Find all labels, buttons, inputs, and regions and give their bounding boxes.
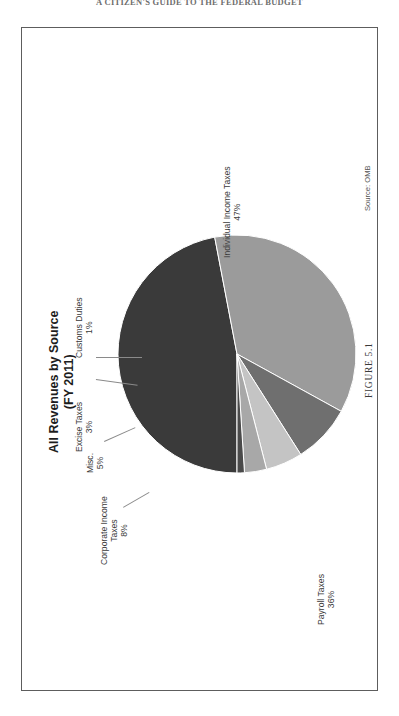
slice-label-excise-taxes-pct: 3% xyxy=(84,402,94,452)
slice-label-customs-duties-pct: 1% xyxy=(84,297,94,358)
pie-chart: All Revenues by Source (FY 2011) Individ… xyxy=(22,28,379,692)
pie-slice-individual-income-taxes xyxy=(118,237,237,473)
slice-label-customs-duties-name: Customs Duties xyxy=(74,297,84,358)
slice-label-corporate-income-taxes-name1: Corporate Income xyxy=(99,496,109,565)
chart-title: All Revenues by Source (FY 2011) xyxy=(47,311,76,453)
figure-caption: FIGURE 5.1 xyxy=(364,342,374,398)
slice-label-misc-name: Misc. xyxy=(85,453,95,473)
slice-label-payroll-taxes-name: Payroll Taxes xyxy=(316,574,326,625)
pie-graphic xyxy=(117,234,357,474)
slice-label-payroll-taxes: Payroll Taxes 36% xyxy=(316,574,336,625)
slice-label-individual-income-taxes-name: Individual Income Taxes xyxy=(222,166,232,258)
slice-label-individual-income-taxes: Individual Income Taxes 47% xyxy=(222,166,242,258)
slice-label-misc: Misc. 5% xyxy=(85,453,105,473)
chart-title-line1: All Revenues by Source xyxy=(47,311,62,453)
running-head: A CITIZEN'S GUIDE TO THE FEDERAL BUDGET xyxy=(0,0,399,6)
pie-svg xyxy=(117,234,357,474)
slice-label-misc-pct: 5% xyxy=(95,453,105,473)
slice-label-payroll-taxes-pct: 36% xyxy=(326,574,336,625)
slice-label-excise-taxes-name: Excise Taxes xyxy=(74,402,84,452)
source-note: Source: OMB xyxy=(363,165,372,211)
slice-label-customs-duties: Customs Duties 1% xyxy=(74,297,94,358)
figure-frame: All Revenues by Source (FY 2011) Individ… xyxy=(21,27,378,691)
slice-label-individual-income-taxes-pct: 47% xyxy=(232,166,242,258)
slice-label-excise-taxes: Excise Taxes 3% xyxy=(74,402,94,452)
slice-label-corporate-income-taxes-name2: Taxes xyxy=(109,496,119,565)
leader-line-customs-duties xyxy=(96,357,142,358)
